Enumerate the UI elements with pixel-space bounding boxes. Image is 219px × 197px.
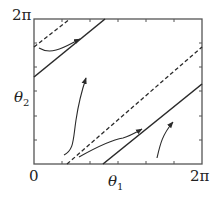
dashed-line-lower <box>67 47 202 164</box>
solid-line-lower <box>103 84 202 164</box>
x-min-label: 0 <box>29 169 39 184</box>
x-max-label: 2π <box>190 169 209 184</box>
solid-line-upper <box>34 19 105 77</box>
plot-frame <box>34 19 202 164</box>
y-axis-subscript: 2 <box>23 97 29 108</box>
x-axis-label: θ1 <box>108 174 123 192</box>
trajectory-arrow-right <box>157 122 173 158</box>
y-max-label: 2π <box>12 8 31 23</box>
y-axis-ticks <box>34 43 202 140</box>
trajectory-arrow-middle <box>79 129 142 157</box>
y-axis-symbol: θ <box>14 88 23 106</box>
x-axis-subscript: 1 <box>117 181 123 192</box>
dashed-line-upper <box>34 19 70 47</box>
trajectory-arrow-left <box>64 78 86 155</box>
x-axis-symbol: θ <box>108 172 117 190</box>
y-axis-label: θ2 <box>14 90 29 108</box>
